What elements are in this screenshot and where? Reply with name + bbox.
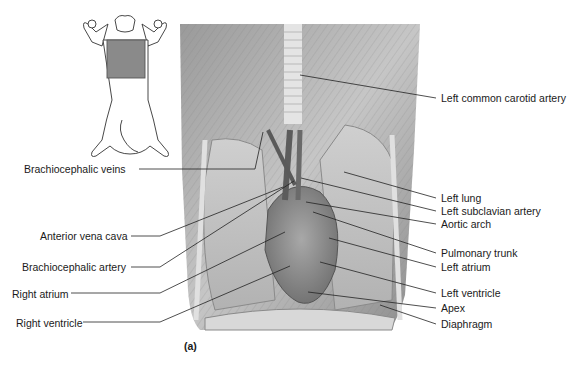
label-left-common-carotid-artery: Left common carotid artery	[441, 92, 566, 104]
thoracic-dissection-illustration	[180, 24, 420, 330]
label-aortic-arch: Aortic arch	[441, 218, 491, 230]
panel-label: (a)	[184, 340, 197, 352]
label-brachiocephalic-veins: Brachiocephalic veins	[24, 163, 126, 175]
label-brachiocephalic-artery: Brachiocephalic artery	[22, 261, 126, 273]
label-diaphragm: Diaphragm	[441, 318, 492, 330]
label-right-ventricle: Right ventricle	[16, 317, 83, 329]
label-apex: Apex	[441, 302, 465, 314]
label-left-lung: Left lung	[441, 192, 481, 204]
label-right-atrium: Right atrium	[12, 288, 69, 300]
cat-ventral-view-icon	[84, 16, 169, 157]
label-left-atrium: Left atrium	[441, 261, 491, 273]
figure-canvas: Brachiocephalic veins Anterior vena cava…	[0, 0, 579, 370]
illustration-layer	[0, 0, 579, 370]
label-left-ventricle: Left ventricle	[441, 287, 501, 299]
label-left-subclavian-artery: Left subclavian artery	[441, 205, 541, 217]
label-pulmonary-trunk: Pulmonary trunk	[441, 247, 517, 259]
label-anterior-vena-cava: Anterior vena cava	[40, 230, 128, 242]
